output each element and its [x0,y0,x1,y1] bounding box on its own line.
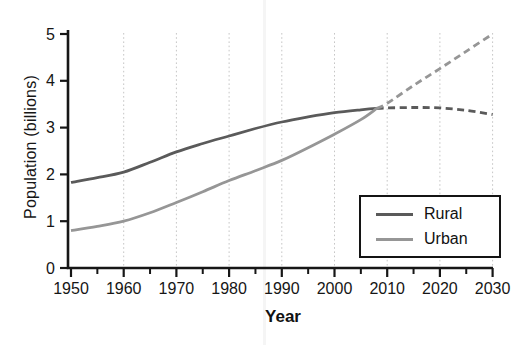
x-tick-label-1960: 1960 [106,280,142,297]
x-tick-label-2020: 2020 [422,280,458,297]
legend: Rural Urban [359,195,501,258]
y-tick-label-1: 1 [46,213,55,230]
x-tick-label-2010: 2010 [369,280,405,297]
legend-label-urban: Urban [424,231,468,247]
y-tick-label-2: 2 [46,166,55,183]
rural-line-projected [377,108,493,115]
y-tick-label-4: 4 [46,72,55,89]
x-axis-title: Year [265,307,301,327]
x-tick-label-1980: 1980 [211,280,247,297]
x-tick-label-2000: 2000 [317,280,353,297]
urban-line-swatch [376,238,413,241]
legend-label-rural: Rural [424,206,462,222]
legend-item-urban: Urban [376,231,499,247]
chart-svg: 0123451950196019701980199020002010202020… [0,0,524,345]
urban-line-projected [377,34,493,108]
x-tick-label-1990: 1990 [264,280,300,297]
y-axis-title: Population (billions) [22,75,40,219]
x-tick-label-1970: 1970 [159,280,195,297]
y-tick-label-0: 0 [46,260,55,277]
rural-line-swatch [376,213,413,216]
population-chart-figure: 0123451950196019701980199020002010202020… [0,0,524,345]
rural-line-solid [71,108,377,182]
x-tick-label-2030: 2030 [475,280,511,297]
legend-item-rural: Rural [376,206,499,222]
urban-line-solid [71,108,377,230]
y-tick-label-3: 3 [46,119,55,136]
y-tick-label-5: 5 [46,26,55,43]
x-tick-label-1950: 1950 [53,280,89,297]
